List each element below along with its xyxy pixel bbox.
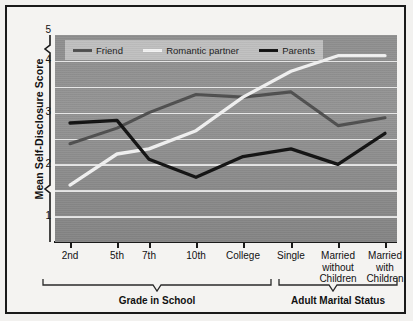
x-label-college: College [216,250,270,262]
x-label-married-with-children-line2: with [357,262,413,274]
x-label-7th-line1: 7th [126,250,172,262]
x-tick-2 [149,242,151,248]
legend-item-friend: Friend [73,45,123,56]
legend: Friend Romantic partner Parents [65,40,323,60]
legend-swatch-friend [73,49,92,52]
y-tick-2: 2 [37,158,51,169]
x-label-college-line1: College [216,250,270,262]
data-series-group [55,35,397,242]
x-tick-3 [196,242,198,248]
x-label-2nd: 2nd [47,250,93,262]
legend-swatch-romantic-partner [143,49,162,52]
x-label-married-with-children: Married with Children [357,250,413,285]
legend-label-romantic-partner: Romantic partner [166,45,239,56]
x-tick-4 [243,242,245,248]
x-label-2nd-line1: 2nd [47,250,93,262]
y-tick-4: 4 [37,54,51,65]
line-friend [70,92,385,144]
y-tick-5: 5 [37,24,51,35]
y-axis-tick-labels: 5 4 3 2 1 [31,7,51,321]
x-label-10th-line1: 10th [173,250,219,262]
y-tick-3: 3 [37,106,51,117]
x-label-10th: 10th [173,250,219,262]
y-tick-1: 1 [37,210,51,221]
x-tick-6 [338,242,340,248]
group-label-grade-in-school: Grade in School [43,295,271,306]
chart-frame: Mean Self-Disclosure Score 5 4 3 2 1 [5,5,406,314]
group-label-adult-marital-status: Adult Marital Status [275,295,401,306]
x-tick-5 [291,242,293,248]
legend-item-romantic-partner: Romantic partner [143,45,239,56]
x-label-7th: 7th [126,250,172,262]
legend-swatch-parents [259,49,278,52]
plot-area: Friend Romantic partner Parents [55,35,397,242]
x-label-married-with-children-line1: Married [357,250,413,262]
x-label-married-with-children-line3: Children [357,273,413,285]
x-tick-1 [117,242,119,248]
x-tick-7 [385,242,387,248]
legend-label-friend: Friend [96,45,123,56]
legend-label-parents: Parents [282,45,315,56]
legend-item-parents: Parents [259,45,315,56]
x-tick-0 [70,242,72,248]
figure: Mean Self-Disclosure Score 5 4 3 2 1 [0,0,413,321]
